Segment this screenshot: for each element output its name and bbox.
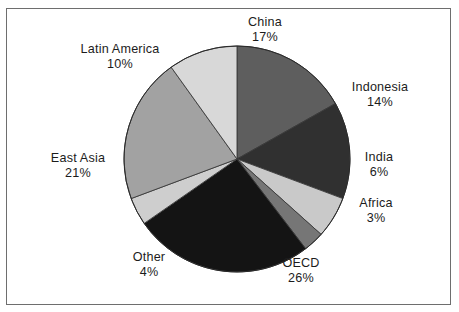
pie-label-oecd: OECD 26% xyxy=(262,256,340,286)
pie-label-east-asia-name: East Asia xyxy=(28,151,128,166)
pie-chart-figure: China 17% Indonesia 14% India 6% Africa … xyxy=(0,0,459,312)
pie-label-other: Other 4% xyxy=(110,250,188,280)
pie-label-latin-america: Latin America 10% xyxy=(58,42,182,72)
pie-label-china-value: 17% xyxy=(225,30,305,45)
pie-label-africa-value: 3% xyxy=(337,211,415,226)
pie-label-india-value: 6% xyxy=(344,165,414,180)
pie-label-africa-name: Africa xyxy=(337,196,415,211)
pie-label-china-name: China xyxy=(225,15,305,30)
pie-label-indonesia: Indonesia 14% xyxy=(332,80,428,110)
pie-label-india-name: India xyxy=(344,150,414,165)
pie-label-other-name: Other xyxy=(110,250,188,265)
pie-label-indonesia-value: 14% xyxy=(332,95,428,110)
pie-label-latin-america-name: Latin America xyxy=(58,42,182,57)
pie-label-east-asia-value: 21% xyxy=(28,166,128,181)
pie-label-oecd-value: 26% xyxy=(262,271,340,286)
pie-label-oecd-name: OECD xyxy=(262,256,340,271)
pie-label-africa: Africa 3% xyxy=(337,196,415,226)
pie-label-indonesia-name: Indonesia xyxy=(332,80,428,95)
pie-label-india: India 6% xyxy=(344,150,414,180)
pie-label-other-value: 4% xyxy=(110,265,188,280)
pie-label-latin-america-value: 10% xyxy=(58,57,182,72)
pie-label-china: China 17% xyxy=(225,15,305,45)
pie-label-east-asia: East Asia 21% xyxy=(28,151,128,181)
